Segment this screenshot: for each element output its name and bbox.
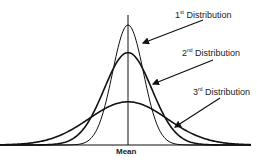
arrow-1st — [143, 20, 203, 43]
curve-1st — [0, 25, 251, 145]
arrow-3rd — [175, 98, 220, 127]
label-3rd-distribution: 3rd Distribution — [193, 86, 250, 97]
label-1st-distribution: 1st Distribution — [175, 9, 231, 20]
curve-3rd — [0, 102, 251, 145]
label-2nd-distribution: 2nd Distribution — [182, 47, 240, 58]
curve-2nd — [0, 53, 251, 145]
arrow-2nd — [153, 60, 213, 84]
distribution-chart — [0, 0, 257, 163]
mean-label: Mean — [116, 147, 136, 156]
